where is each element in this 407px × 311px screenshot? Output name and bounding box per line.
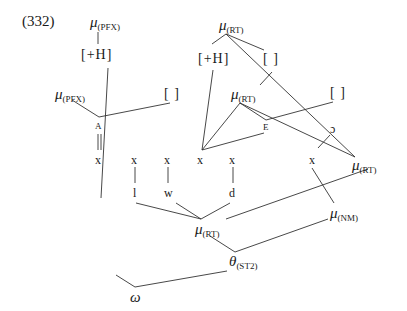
- empty-feature-mid: [ ]: [263, 52, 279, 66]
- mu-rt-mid: μ(RT): [231, 87, 256, 104]
- high-tone-left: [+H]: [81, 48, 112, 62]
- segment-l: l: [133, 187, 136, 199]
- vowel-open-o: ɔ: [330, 123, 335, 135]
- omega: ω: [130, 290, 141, 305]
- vowel-e: E: [263, 123, 269, 132]
- mu-pfx-top: μ(PFX): [90, 15, 120, 32]
- mu-rt-top: μ(RT): [219, 18, 244, 35]
- mu-pfx-left: μ(PFX): [55, 87, 85, 104]
- skeleton-slot-1: x: [95, 154, 101, 166]
- segment-d: d: [229, 187, 235, 199]
- high-tone-right: [+H]: [198, 52, 229, 66]
- skeleton-slot-5: x: [229, 154, 235, 166]
- skeleton-slot-6: x: [309, 154, 315, 166]
- empty-feature-left: [ ]: [164, 87, 180, 101]
- segment-w: w: [164, 187, 173, 199]
- empty-feature-right: [ ]: [330, 86, 346, 100]
- skeleton-slot-4: x: [197, 154, 203, 166]
- mu-rt-bottom: μ(RT): [195, 222, 220, 239]
- skeleton-slot-2: x: [131, 154, 137, 166]
- autosegmental-diagram: (332) μ(PFX) [+H] μ(PFX) [ ] A μ(RT) [+H…: [0, 0, 407, 311]
- diagram-lines: [0, 0, 407, 311]
- example-number: (332): [22, 14, 55, 29]
- skeleton-slot-3: x: [164, 154, 170, 166]
- vowel-a: A: [95, 122, 102, 131]
- theta-st2: θ(ST2): [229, 254, 257, 271]
- mu-nm: μ(NM): [330, 206, 358, 223]
- mu-rt-right: μ(RT): [352, 158, 377, 175]
